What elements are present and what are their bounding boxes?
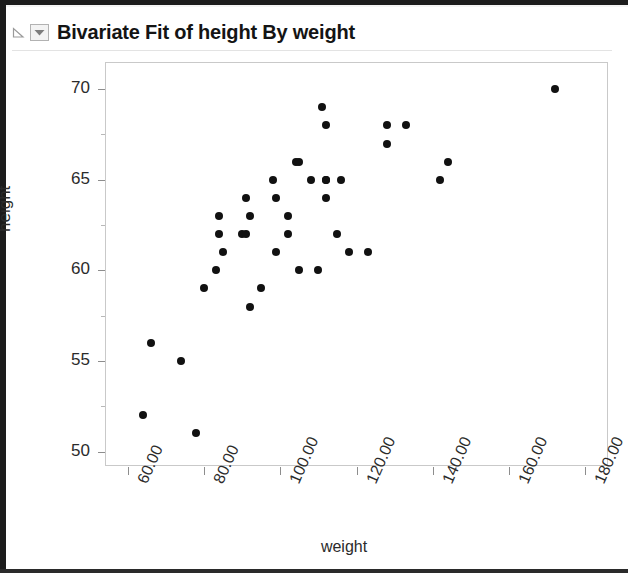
y-axis-tick: [98, 452, 105, 453]
x-axis-tick: [280, 467, 281, 475]
y-axis-minor-tick: [101, 406, 105, 407]
y-axis-tick-label: 55: [40, 350, 90, 370]
y-axis-tick-label: 65: [40, 169, 90, 189]
data-point[interactable]: [402, 121, 410, 129]
data-point[interactable]: [322, 121, 330, 129]
data-point[interactable]: [333, 230, 341, 238]
x-axis-title: weight: [0, 538, 628, 556]
data-point[interactable]: [272, 248, 280, 256]
x-axis-tick: [128, 467, 129, 475]
data-point[interactable]: [215, 212, 223, 220]
data-point[interactable]: [272, 194, 280, 202]
data-point[interactable]: [295, 266, 303, 274]
y-axis-minor-tick: [101, 225, 105, 226]
data-point[interactable]: [200, 284, 208, 292]
x-axis-tick: [433, 467, 434, 475]
y-axis-tick: [98, 270, 105, 271]
report-title-bar: Bivariate Fit of height By weight: [8, 18, 620, 46]
y-axis-tick-label: 50: [40, 441, 90, 461]
data-point[interactable]: [436, 176, 444, 184]
data-point[interactable]: [242, 230, 250, 238]
data-point[interactable]: [322, 194, 330, 202]
y-axis-title: height: [0, 186, 15, 232]
y-axis-minor-tick: [101, 316, 105, 317]
data-point[interactable]: [246, 303, 254, 311]
x-axis-tick: [585, 467, 586, 475]
y-axis-minor-tick: [101, 134, 105, 135]
triangle-outline-icon[interactable]: [12, 26, 25, 39]
data-point[interactable]: [318, 103, 326, 111]
window-inner-highlight: [6, 5, 628, 7]
window-border-bottom: [0, 569, 628, 573]
y-axis-tick: [98, 180, 105, 181]
data-point[interactable]: [139, 411, 147, 419]
data-point[interactable]: [147, 339, 155, 347]
x-axis-tick: [204, 467, 205, 475]
x-axis-tick: [509, 467, 510, 475]
data-point[interactable]: [383, 140, 391, 148]
data-point[interactable]: [444, 158, 452, 166]
data-point[interactable]: [242, 194, 250, 202]
data-point[interactable]: [212, 266, 220, 274]
data-point[interactable]: [345, 248, 353, 256]
data-point[interactable]: [215, 230, 223, 238]
data-point[interactable]: [307, 176, 315, 184]
window-border-left: [0, 0, 6, 573]
data-point[interactable]: [177, 357, 185, 365]
x-axis-tick: [357, 467, 358, 475]
data-point[interactable]: [314, 266, 322, 274]
y-axis-tick-label: 60: [40, 259, 90, 279]
scatter-plot-frame[interactable]: [105, 62, 608, 466]
data-point[interactable]: [257, 284, 265, 292]
title-divider: [12, 50, 612, 51]
page-title: Bivariate Fit of height By weight: [57, 22, 355, 42]
data-point[interactable]: [284, 230, 292, 238]
data-point[interactable]: [246, 212, 254, 220]
data-point[interactable]: [322, 176, 330, 184]
data-point[interactable]: [364, 248, 372, 256]
data-point[interactable]: [284, 212, 292, 220]
data-point[interactable]: [337, 176, 345, 184]
data-point[interactable]: [383, 121, 391, 129]
data-point[interactable]: [192, 429, 200, 437]
bivariate-fit-window: Bivariate Fit of height By weight 505560…: [0, 0, 628, 573]
chevron-down-icon[interactable]: [30, 24, 49, 41]
x-axis-title-text: weight: [321, 538, 367, 555]
y-axis-tick-label: 70: [40, 78, 90, 98]
y-axis-tick: [98, 89, 105, 90]
data-point[interactable]: [269, 176, 277, 184]
y-axis-tick: [98, 361, 105, 362]
data-point[interactable]: [295, 158, 303, 166]
data-point[interactable]: [219, 248, 227, 256]
data-point[interactable]: [551, 85, 559, 93]
